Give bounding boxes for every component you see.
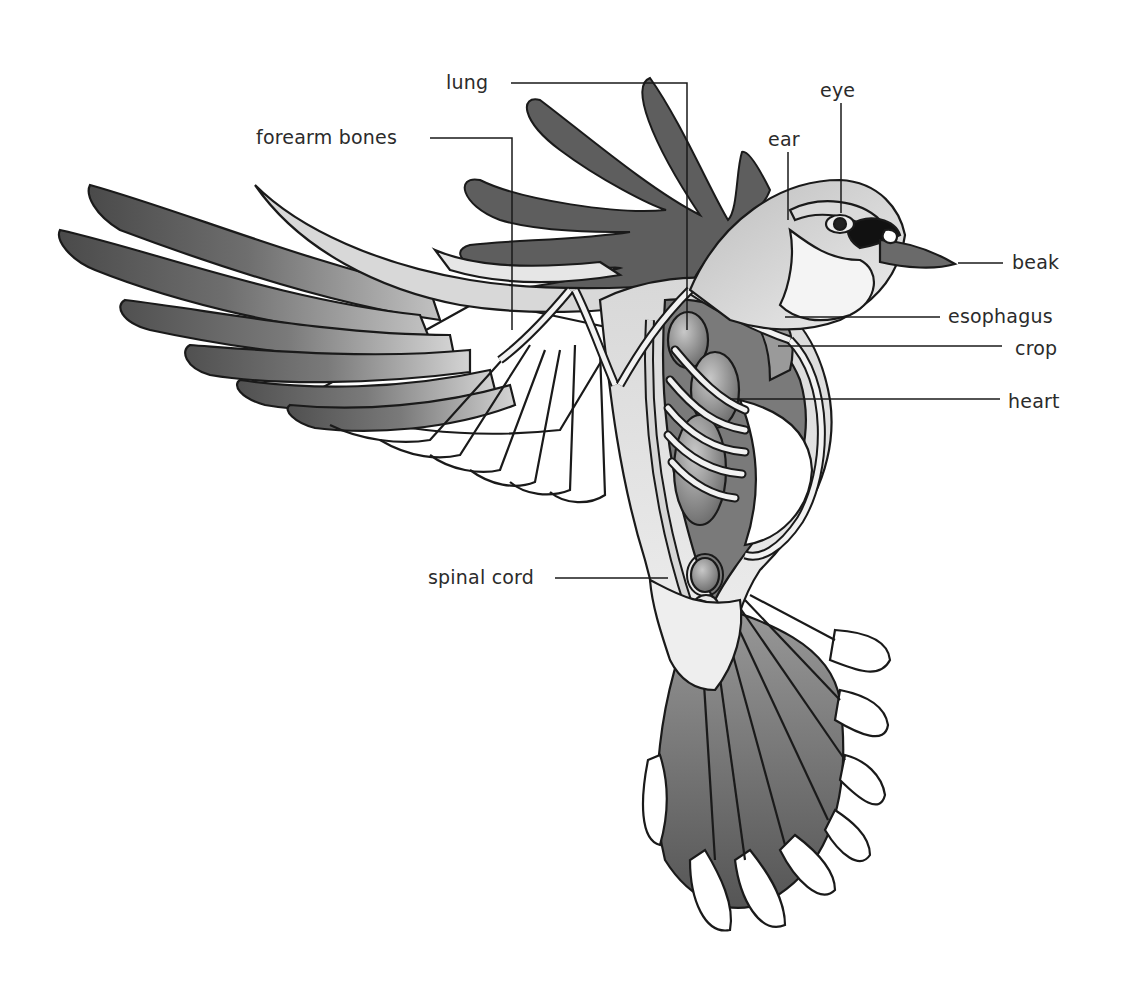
label-spinal-cord: spinal cord (428, 568, 534, 587)
label-eye: eye (820, 81, 855, 100)
label-ear: ear (768, 130, 800, 149)
label-forearm-bones: forearm bones (256, 128, 397, 147)
bird-anatomy-diagram: lung forearm bones eye ear beak esophagu… (0, 0, 1121, 1002)
label-lung: lung (446, 73, 488, 92)
label-esophagus: esophagus (948, 307, 1053, 326)
label-crop: crop (1015, 339, 1057, 358)
bird-illustration (0, 0, 1121, 1002)
tail (643, 580, 890, 930)
head (690, 180, 955, 329)
label-heart: heart (1008, 392, 1060, 411)
label-beak: beak (1012, 253, 1059, 272)
